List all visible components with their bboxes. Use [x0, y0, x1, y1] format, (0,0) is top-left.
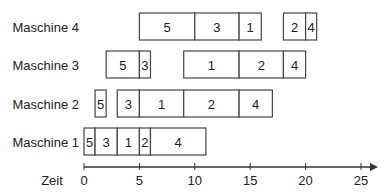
task-label: 4: [291, 58, 298, 73]
machine-row: Maschine 253124: [13, 90, 273, 117]
task-label: 3: [103, 135, 110, 150]
machine-label: Maschine 3: [13, 58, 79, 73]
machine-label: Maschine 2: [13, 97, 79, 112]
task-label: 5: [97, 97, 104, 112]
x-tick-label: 5: [136, 173, 143, 188]
task-label: 4: [252, 97, 259, 112]
task-label: 3: [141, 58, 148, 73]
task-label: 5: [86, 135, 93, 150]
task-label: 5: [163, 20, 170, 35]
task-label: 3: [125, 97, 132, 112]
task-label: 3: [213, 20, 220, 35]
x-tick-label: 0: [80, 173, 87, 188]
task-label: 1: [125, 135, 132, 150]
task-label: 2: [258, 58, 265, 73]
task-label: 4: [308, 20, 315, 35]
task-label: 1: [208, 58, 215, 73]
machine-row: Maschine 453124: [13, 13, 317, 40]
task-label: 5: [119, 58, 126, 73]
task-label: 2: [141, 135, 148, 150]
machine-label: Maschine 1: [13, 135, 79, 150]
x-tick-label: 20: [298, 173, 312, 188]
gantt-chart: Maschine 453124Maschine 353124Maschine 2…: [0, 0, 391, 195]
time-axis: Zeit 0510152025: [41, 163, 378, 188]
x-tick-label: 15: [243, 173, 257, 188]
task-label: 2: [291, 20, 298, 35]
x-axis-title: Zeit: [41, 173, 63, 188]
machine-row: Maschine 353124: [13, 51, 306, 78]
x-tick-label: 25: [354, 173, 368, 188]
x-axis-arrow-icon: [370, 163, 378, 171]
task-label: 1: [158, 97, 165, 112]
x-tick-label: 10: [188, 173, 202, 188]
machine-row: Maschine 153124: [13, 128, 206, 155]
task-label: 2: [208, 97, 215, 112]
task-label: 4: [175, 135, 182, 150]
machine-label: Maschine 4: [13, 20, 79, 35]
task-label: 1: [247, 20, 254, 35]
machine-rows: Maschine 453124Maschine 353124Maschine 2…: [13, 13, 317, 155]
